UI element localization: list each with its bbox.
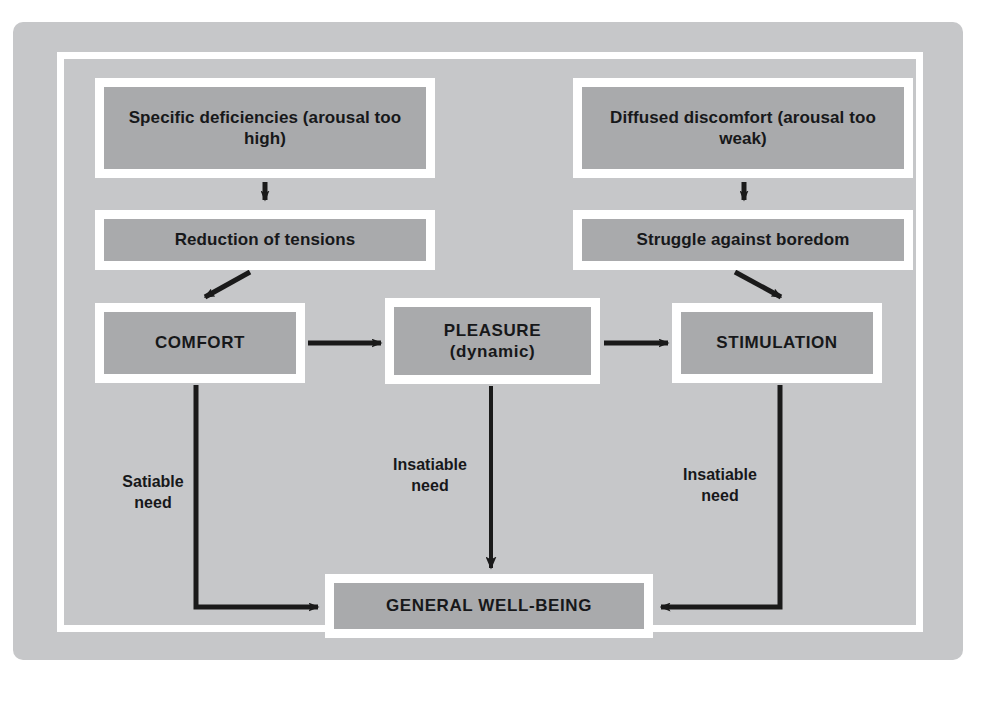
edge-label-insatiable-need-middle: Insatiable need [375, 455, 485, 497]
box-fill: PLEASURE (dynamic) [394, 307, 591, 375]
box-label: Reduction of tensions [169, 229, 362, 250]
box-label: GENERAL WELL-BEING [380, 595, 598, 616]
box-fill: Diffused discomfort (arousal too weak) [582, 87, 904, 169]
box-fill: Reduction of tensions [104, 219, 426, 261]
box-fill: Struggle against boredom [582, 219, 904, 261]
box-stimulation: STIMULATION [672, 303, 882, 383]
box-fill: COMFORT [104, 312, 296, 374]
box-diffused-discomfort: Diffused discomfort (arousal too weak) [573, 78, 913, 178]
box-label: Specific deficiencies (arousal too high) [104, 107, 426, 150]
box-fill: STIMULATION [681, 312, 873, 374]
box-struggle-against-boredom: Struggle against boredom [573, 210, 913, 270]
edge-label-satiable-need: Satiable need [98, 472, 208, 514]
box-label: Struggle against boredom [630, 229, 855, 250]
box-fill: Specific deficiencies (arousal too high) [104, 87, 426, 169]
edge-label-insatiable-need-right: Insatiable need [665, 465, 775, 507]
flow-diagram-figure: Specific deficiencies (arousal too high)… [0, 0, 983, 711]
caption-ghost-text [30, 676, 930, 698]
box-label: Diffused discomfort (arousal too weak) [582, 107, 904, 150]
box-reduction-of-tensions: Reduction of tensions [95, 210, 435, 270]
box-label: PLEASURE (dynamic) [394, 320, 591, 363]
box-fill: GENERAL WELL-BEING [334, 583, 644, 629]
box-general-wellbeing: GENERAL WELL-BEING [325, 574, 653, 638]
box-pleasure: PLEASURE (dynamic) [385, 298, 600, 384]
box-label: COMFORT [149, 332, 251, 353]
box-comfort: COMFORT [95, 303, 305, 383]
box-label: STIMULATION [710, 332, 844, 353]
box-specific-deficiencies: Specific deficiencies (arousal too high) [95, 78, 435, 178]
